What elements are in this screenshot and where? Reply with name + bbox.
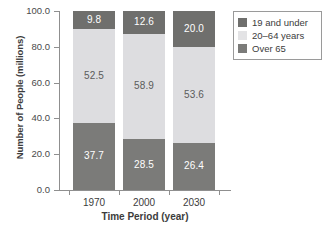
y-tick: 0.0 xyxy=(54,190,59,191)
y-tick-label: 40.0 xyxy=(32,112,51,123)
x-tick-label: 2030 xyxy=(172,197,216,208)
x-axis-title: Time Period (year) xyxy=(45,211,245,222)
legend-item[interactable]: 19 and under xyxy=(238,16,316,29)
plot-area: 0.020.040.060.080.0100.0 197020002030 37… xyxy=(59,11,231,190)
y-tick: 60.0 xyxy=(54,83,59,84)
legend-label: 20–64 years xyxy=(252,30,304,41)
legend: 19 and under20–64 yearsOver 65 xyxy=(233,11,322,60)
bar-segment[interactable]: 9.8 xyxy=(73,11,115,29)
legend-item[interactable]: Over 65 xyxy=(238,42,316,55)
y-axis-title: Number of People (millions) xyxy=(14,8,25,188)
bar-segment[interactable]: 20.0 xyxy=(173,11,215,47)
y-tick-label: 80.0 xyxy=(32,41,51,52)
bar-value-label: 9.8 xyxy=(87,15,101,25)
legend-swatch-icon xyxy=(238,31,247,40)
stacked-bar[interactable]: 28.558.912.6 xyxy=(123,11,165,190)
y-tick: 100.0 xyxy=(54,11,59,12)
chart-figure: Number of People (millions) 0.020.040.06… xyxy=(0,0,330,233)
bar-segment[interactable]: 37.7 xyxy=(73,123,115,190)
bar-segment[interactable]: 52.5 xyxy=(73,29,115,123)
legend-swatch-icon xyxy=(238,44,247,53)
y-axis-line xyxy=(59,11,60,190)
stacked-bar[interactable]: 26.453.620.0 xyxy=(173,11,215,190)
legend-label: 19 and under xyxy=(252,17,308,28)
bar-value-label: 37.7 xyxy=(84,151,104,161)
bar-value-label: 58.9 xyxy=(134,81,154,91)
legend-label: Over 65 xyxy=(252,43,286,54)
bar-value-label: 12.6 xyxy=(134,17,154,27)
y-tick-label: 100.0 xyxy=(26,5,50,16)
stacked-bar[interactable]: 37.752.59.8 xyxy=(73,11,115,190)
bar-segment[interactable]: 26.4 xyxy=(173,143,215,190)
y-tick-label: 0.0 xyxy=(37,184,50,195)
x-tick-label: 1970 xyxy=(72,197,116,208)
x-tick xyxy=(169,190,170,195)
x-tick xyxy=(119,190,120,195)
legend-swatch-icon xyxy=(238,18,247,27)
x-tick-label: 2000 xyxy=(122,197,166,208)
bar-segment[interactable]: 28.5 xyxy=(123,139,165,190)
y-tick: 40.0 xyxy=(54,118,59,119)
x-axis-line xyxy=(59,190,231,191)
y-tick: 20.0 xyxy=(54,154,59,155)
y-tick: 80.0 xyxy=(54,47,59,48)
bar-value-label: 52.5 xyxy=(84,71,104,81)
bar-value-label: 26.4 xyxy=(184,161,204,171)
bar-segment[interactable]: 53.6 xyxy=(173,47,215,143)
bar-value-label: 20.0 xyxy=(184,24,204,34)
y-tick-label: 20.0 xyxy=(32,148,51,159)
x-tick xyxy=(219,190,220,195)
bar-segment[interactable]: 12.6 xyxy=(123,11,165,34)
x-tick xyxy=(69,190,70,195)
bar-value-label: 53.6 xyxy=(184,90,204,100)
y-tick-label: 60.0 xyxy=(32,77,51,88)
bar-value-label: 28.5 xyxy=(134,160,154,170)
bar-segment[interactable]: 58.9 xyxy=(123,34,165,139)
legend-item[interactable]: 20–64 years xyxy=(238,29,316,42)
